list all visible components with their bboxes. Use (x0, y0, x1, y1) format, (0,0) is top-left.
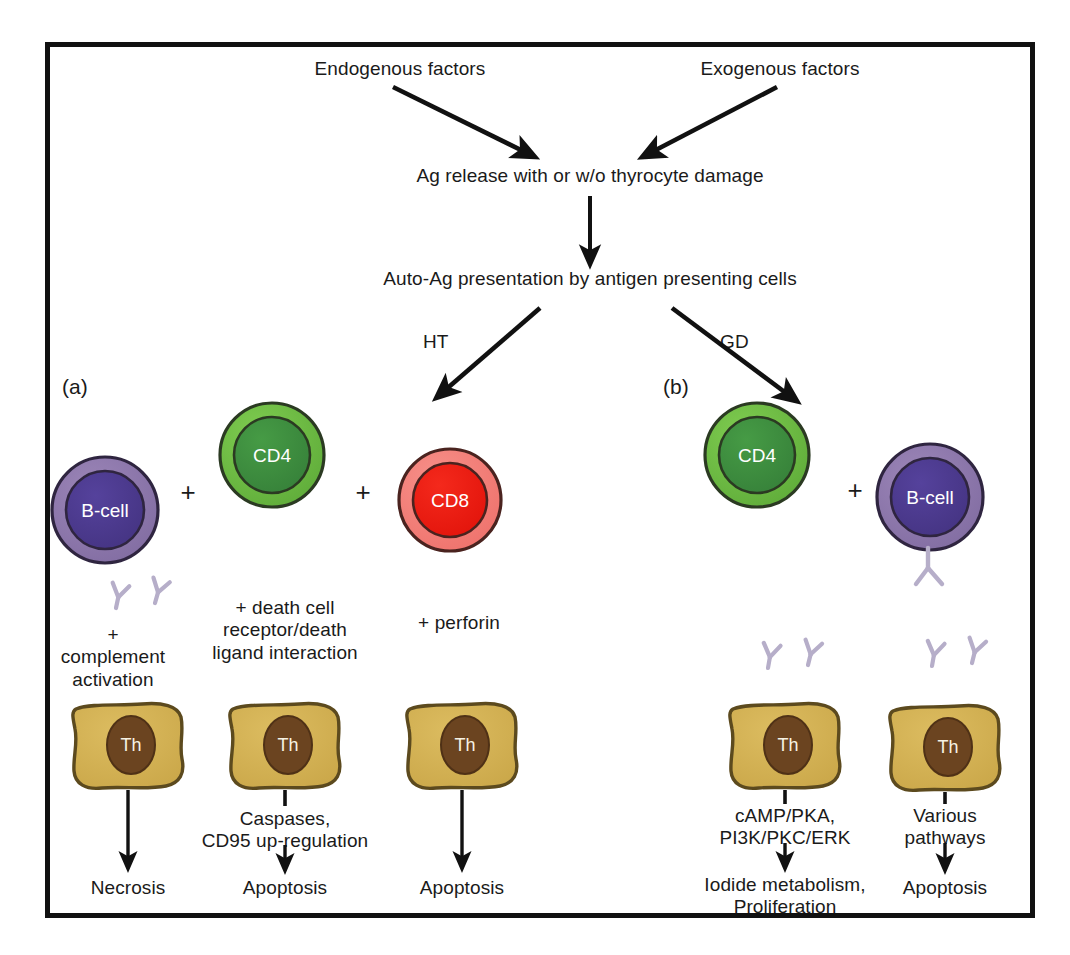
panel-a-tag: (a) (62, 375, 88, 399)
outcome-label-a-2: Apoptosis (243, 877, 327, 899)
branch-label-gd: GD (720, 331, 749, 353)
plus-sign-b-1: + (847, 475, 862, 506)
outcome-label-a-3: Apoptosis (420, 877, 504, 899)
plus-sign-a-1: + (180, 477, 195, 508)
ag-release-step-label: Ag release with or w/o thyrocyte damage (416, 165, 763, 187)
auto-ag-presentation-step-label: Auto-Ag presentation by antigen presenti… (383, 268, 797, 290)
mechanism-label-a-1: + complement activation (61, 624, 166, 691)
outcome-label-b-1: Iodide metabolism, Proliferation (704, 874, 865, 919)
branch-label-ht: HT (423, 331, 449, 353)
panel-b-tag: (b) (663, 375, 689, 399)
exogenous-factors-label: Exogenous factors (700, 58, 859, 80)
outcome-label-b-2: Apoptosis (903, 877, 987, 899)
mechanism-label-a-3: + perforin (418, 612, 500, 634)
intermediate-label-b-1: cAMP/PKA, PI3K/PKC/ERK (719, 805, 850, 850)
mechanism-label-a-2: + death cell receptor/death ligand inter… (212, 597, 357, 664)
intermediate-label-b-2: Various pathways (904, 805, 985, 850)
figure-canvas: Endogenous factors Exogenous factors Ag … (0, 0, 1070, 955)
endogenous-factors-label: Endogenous factors (315, 58, 486, 80)
intermediate-label-a-2: Caspases, CD95 up-regulation (202, 808, 369, 853)
plus-sign-a-2: + (355, 477, 370, 508)
outcome-label-a-1: Necrosis (91, 877, 166, 899)
